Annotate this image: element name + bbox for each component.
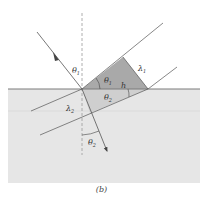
figure-caption: (b) xyxy=(0,185,203,194)
incident-ray-arrow-icon xyxy=(53,52,59,61)
lambda1-label: λ1 xyxy=(137,64,146,74)
upper-parallel-line-2 xyxy=(148,67,177,89)
refraction-diagram: θ1 θ1 λ1 h θ2 λ2 θ2 xyxy=(0,0,203,199)
incident-ray xyxy=(37,32,82,89)
theta1-incident-label: θ1 xyxy=(72,66,80,76)
h-label: h xyxy=(121,81,126,90)
